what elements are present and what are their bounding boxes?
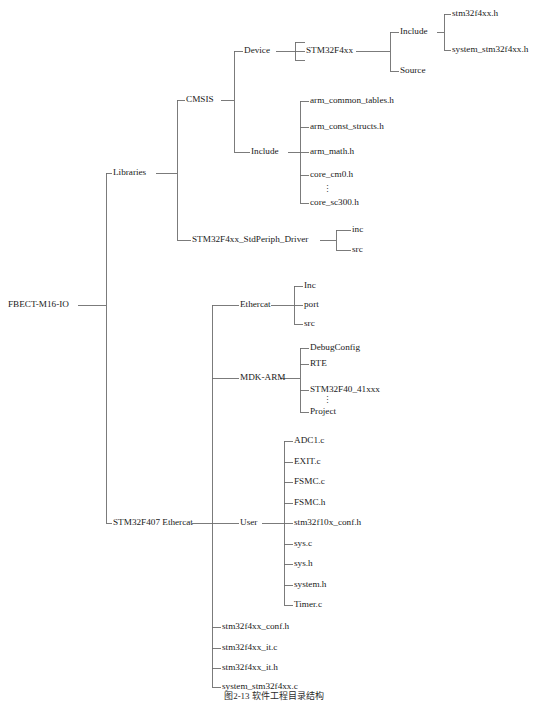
tree-node-u_systemh[interactable]: system.h bbox=[294, 579, 327, 589]
tree-node-ethercat[interactable]: Ethercat bbox=[240, 299, 271, 309]
tree-node-r_conf[interactable]: stm32f4xx_conf.h bbox=[222, 621, 290, 631]
tree-node-device[interactable]: Device bbox=[244, 45, 270, 55]
tree-diagram-canvas: ⋮⋮ FBECT-M16-IOLibrariesCMSISDeviceSTM32… bbox=[0, 0, 548, 705]
tree-node-d_inc[interactable]: inc bbox=[352, 224, 363, 234]
tree-node-mdkarm[interactable]: MDK-ARM bbox=[240, 372, 285, 382]
tree-node-root[interactable]: FBECT-M16-IO bbox=[8, 299, 69, 309]
directory-tree-figure: ⋮⋮ FBECT-M16-IOLibrariesCMSISDeviceSTM32… bbox=[0, 0, 548, 705]
tree-labels-group: FBECT-M16-IOLibrariesCMSISDeviceSTM32F4x… bbox=[8, 8, 529, 691]
tree-node-d_src[interactable]: src bbox=[352, 244, 363, 254]
tree-node-u_timerc[interactable]: Timer.c bbox=[294, 599, 322, 609]
tree-edges-group bbox=[78, 14, 451, 687]
tree-node-m_project[interactable]: Project bbox=[310, 406, 336, 416]
figure-caption: 图2-13 软件工程目录结构 bbox=[0, 688, 548, 705]
tree-node-m_stm32f40[interactable]: STM32F40_41xxx bbox=[310, 384, 380, 394]
tree-node-u_fsmch[interactable]: FSMC.h bbox=[294, 497, 326, 507]
tree-node-e_port[interactable]: port bbox=[304, 299, 319, 309]
tree-ellipsis-group: ⋮⋮ bbox=[323, 184, 332, 405]
tree-node-inc_cmsis[interactable]: Include bbox=[251, 146, 279, 156]
tree-node-src_dev[interactable]: Source bbox=[400, 65, 426, 75]
tree-node-f_coresc300[interactable]: core_sc300.h bbox=[310, 197, 359, 207]
vertical-ellipsis-ell-mdk-proj: ⋮ bbox=[323, 395, 332, 405]
tree-node-m_rte[interactable]: RTE bbox=[310, 358, 327, 368]
tree-node-f407[interactable]: STM32F407 Ethercat bbox=[113, 517, 193, 527]
tree-node-r_itc[interactable]: stm32f4xx_it.c bbox=[222, 642, 277, 652]
tree-node-u_conf10x[interactable]: stm32f10x_conf.h bbox=[294, 517, 362, 527]
tree-node-libraries[interactable]: Libraries bbox=[113, 167, 147, 177]
tree-node-f_corecm0[interactable]: core_cm0.h bbox=[310, 169, 354, 179]
tree-node-u_sysc[interactable]: sys.c bbox=[294, 538, 312, 548]
tree-node-e_src[interactable]: src bbox=[304, 318, 315, 328]
tree-node-stm32f4xx[interactable]: STM32F4xx bbox=[306, 45, 353, 55]
tree-node-inc_dev[interactable]: Include bbox=[400, 26, 428, 36]
tree-node-u_adc1[interactable]: ADC1.c bbox=[294, 435, 324, 445]
tree-node-f_armtab[interactable]: arm_common_tables.h bbox=[310, 95, 394, 105]
tree-node-u_sysh[interactable]: sys.h bbox=[294, 558, 313, 568]
tree-node-f_armconst[interactable]: arm_const_structs.h bbox=[310, 121, 384, 131]
tree-node-f_stm32h[interactable]: stm32f4xx.h bbox=[452, 8, 499, 18]
tree-node-u_exit[interactable]: EXIT.c bbox=[294, 456, 321, 466]
tree-node-user[interactable]: User bbox=[240, 517, 257, 527]
tree-node-f_sysstm32h[interactable]: system_stm32f4xx.h bbox=[452, 44, 529, 54]
tree-node-f_armmath[interactable]: arm_math.h bbox=[310, 146, 355, 156]
tree-node-cmsis[interactable]: CMSIS bbox=[186, 94, 214, 104]
tree-node-u_fsmcc[interactable]: FSMC.c bbox=[294, 476, 325, 486]
tree-node-m_debug[interactable]: DebugConfig bbox=[310, 342, 360, 352]
tree-node-r_ith[interactable]: stm32f4xx_it.h bbox=[222, 662, 278, 672]
vertical-ellipsis-ell-cmsis-core: ⋮ bbox=[323, 184, 332, 194]
tree-node-stdperiph[interactable]: STM32F4xx_StdPeriph_Driver bbox=[192, 234, 308, 244]
tree-node-e_inc[interactable]: Inc bbox=[304, 280, 316, 290]
